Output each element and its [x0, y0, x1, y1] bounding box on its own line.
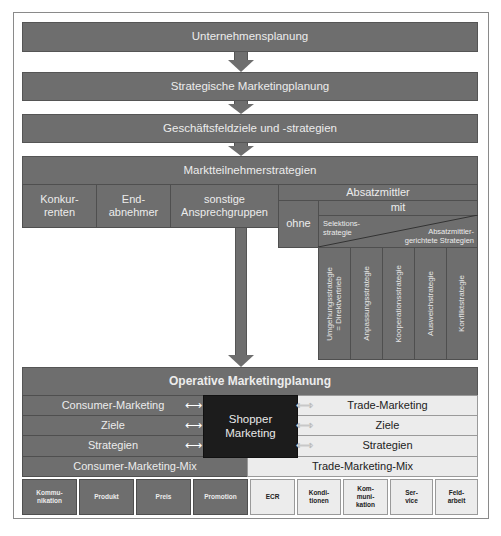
- double-arrow-icon: ⟷: [296, 439, 313, 451]
- geschaeftsfeld-bar: Geschäftsfeldziele und -strategien: [22, 114, 478, 143]
- marktteilnehmer-label: Marktteilnehmerstrategien: [184, 164, 317, 178]
- mix-item-service: Ser- vice: [390, 479, 433, 515]
- mix-item-preis: Preis: [136, 479, 191, 515]
- double-arrow-icon: ⟷: [185, 419, 202, 431]
- strategy-column: Kooperationsstrategie: [382, 247, 415, 360]
- mix-item-konditionen: Kondi- tionen: [297, 479, 341, 515]
- trade-ziele-row: Ziele: [297, 415, 478, 436]
- endabnehmer-box: End- abnehmer: [96, 184, 171, 228]
- mix-item-produkt: Produkt: [79, 479, 134, 515]
- operative-marketingplanung-bar: Operative Marketingplanung: [22, 367, 478, 396]
- mix-item-kommunikation: Kommu- nikation: [22, 479, 77, 515]
- konfliktstrategie-label: Konfliktstrategie: [457, 275, 466, 332]
- down-arrow-icon: [228, 146, 254, 156]
- double-arrow-icon: ⟷: [185, 439, 202, 451]
- strategische-marketingplanung-bar: Strategische Marketingplanung: [22, 72, 478, 101]
- down-arrow-icon: [228, 104, 254, 114]
- shopper-marketing-box: Shopper Marketing: [203, 395, 298, 458]
- double-arrow-icon: ⟷: [296, 399, 313, 411]
- mix-item-ecr: ECR: [250, 479, 295, 515]
- consumer-strategien-row: Strategien: [22, 435, 204, 457]
- strategy-column: Anpassungsstrategie: [350, 247, 383, 360]
- mix-item-promotion: Promotion: [193, 479, 248, 515]
- trade-strategien-row: Strategien: [297, 435, 478, 457]
- unternehmensplanung-label: Unternehmensplanung: [192, 30, 308, 44]
- selection-strategy-diagonal-box: Selektions- strategie Absatzmittler- ger…: [318, 215, 478, 248]
- konkurrenten-box: Konkur- renten: [22, 184, 97, 228]
- mix-item-kommunikation-trade: Kom- muni- kation: [343, 479, 388, 515]
- ausweichstrategie-label: Ausweichstrategie: [426, 271, 435, 336]
- down-arrow-icon: [228, 60, 254, 72]
- strategy-column: Konfliktstrategie: [446, 247, 478, 360]
- strategy-column: Umgehungsstrategie = Direktvertrieb: [318, 247, 351, 360]
- strategische-label: Strategische Marketingplanung: [171, 80, 330, 94]
- down-arrow-icon: [228, 355, 254, 367]
- mix-item-feldarbeit: Feld- arbeit: [435, 479, 478, 515]
- double-arrow-icon: ⟷: [185, 399, 202, 411]
- anpassungsstrategie-label: Anpassungsstrategie: [362, 266, 371, 341]
- double-arrow-icon: ⟷: [296, 419, 313, 431]
- kooperationsstrategie-label: Kooperationsstrategie: [394, 265, 403, 343]
- sonstige-ansprechgruppen-box: sonstige Ansprechgruppen: [170, 184, 279, 228]
- trade-marketing-row: Trade-Marketing: [297, 395, 478, 416]
- ohne-box: ohne: [278, 200, 319, 248]
- long-arrow-shaft: [235, 228, 247, 356]
- umgehungsstrategie-label: Umgehungsstrategie = Direktvertrieb: [325, 267, 343, 341]
- operative-title: Operative Marketingplanung: [169, 374, 331, 388]
- absatzmittler-header: Absatzmittler: [278, 184, 478, 201]
- arrow-shaft: [234, 52, 248, 60]
- geschaeftsfeld-label: Geschäftsfeldziele und -strategien: [163, 122, 337, 136]
- absatzmittlergerichtete-label: Absatzmittler- gerichtete Strategien: [405, 227, 474, 245]
- consumer-ziele-row: Ziele: [22, 415, 204, 436]
- strategy-column: Ausweichstrategie: [414, 247, 447, 360]
- marktteilnehmer-bar: Marktteilnehmerstrategien: [22, 156, 478, 185]
- mit-header: mit: [318, 200, 478, 216]
- consumer-marketing-mix-bar: Consumer-Marketing-Mix: [22, 456, 248, 477]
- consumer-marketing-row: Consumer-Marketing: [22, 395, 204, 416]
- trade-marketing-mix-bar: Trade-Marketing-Mix: [247, 456, 478, 477]
- unternehmensplanung-bar: Unternehmensplanung: [22, 22, 478, 52]
- selektionsstrategie-label: Selektions- strategie: [323, 219, 360, 237]
